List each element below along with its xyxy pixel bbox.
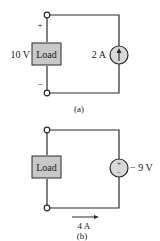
wire-b-bottom — [49, 177, 119, 208]
terminal-b-top — [44, 127, 50, 133]
circuit-b: Load + − − 9 V 4 A (b) — [32, 127, 153, 241]
caption-b: (b) — [77, 231, 88, 241]
circuit-a: Load 10 V + − 2 A (a) — [10, 12, 128, 114]
minus-sign-a: − — [37, 79, 42, 89]
load-voltage-label-a: 10 V — [10, 49, 30, 60]
plus-sign-a: + — [37, 20, 42, 30]
terminal-a-bottom — [44, 90, 50, 96]
wire-a-top — [49, 15, 119, 46]
wire-b-top — [49, 130, 119, 159]
circuit-diagrams: Load 10 V + − 2 A (a) Load + − − 9 V 4 A — [0, 0, 160, 241]
voltage-source-plus: + — [117, 160, 121, 168]
current-label-b: 4 A — [78, 221, 91, 231]
arrow-right-icon — [94, 215, 99, 219]
load-label-a: Load — [36, 49, 57, 60]
load-label-b: Load — [36, 162, 57, 173]
terminal-a-top — [44, 12, 50, 18]
wire-a-bottom — [49, 64, 119, 93]
terminal-b-bottom — [44, 205, 50, 211]
source-label-a: 2 A — [92, 49, 107, 60]
source-label-b: − 9 V — [130, 162, 153, 173]
voltage-source-minus: − — [117, 169, 121, 177]
caption-a: (a) — [74, 104, 84, 114]
